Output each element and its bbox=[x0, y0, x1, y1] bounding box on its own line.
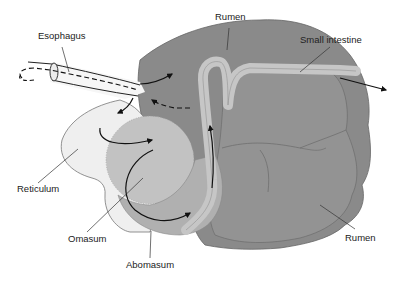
label-esophagus: Esophagus bbox=[38, 31, 86, 41]
esophagus-opening bbox=[50, 63, 58, 81]
label-reticulum: Reticulum bbox=[17, 184, 59, 194]
label-rumen-bottom: Rumen bbox=[345, 233, 376, 243]
label-rumen-top: Rumen bbox=[215, 12, 246, 22]
label-omasum: Omasum bbox=[68, 234, 107, 244]
label-abomasum: Abomasum bbox=[126, 260, 174, 270]
leader-abomasum bbox=[150, 231, 151, 258]
esophagus-tube bbox=[50, 62, 145, 99]
label-small-intestine: Small intestine bbox=[300, 35, 362, 45]
